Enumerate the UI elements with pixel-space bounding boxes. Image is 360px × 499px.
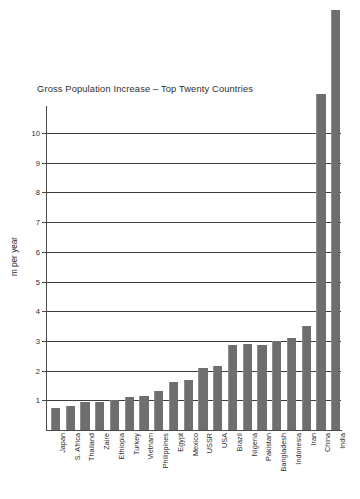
bar <box>184 380 193 430</box>
bar <box>80 402 89 430</box>
category-label: Egypt <box>176 433 185 452</box>
category-label: Nigeria <box>250 433 259 456</box>
category-label: Vietnam <box>146 433 155 460</box>
bar <box>110 400 119 430</box>
bar <box>302 326 311 430</box>
x-axis-category-labels: JapanS. AfricaThailandZaireEthiopiaTurke… <box>47 433 342 499</box>
y-tick-label: 1 <box>14 396 40 405</box>
category-label: Indonesia <box>294 433 303 465</box>
bar <box>331 10 340 430</box>
bar <box>213 366 222 430</box>
bar <box>66 406 75 430</box>
y-tick-mark <box>42 371 47 372</box>
category-label: Iran <box>309 433 318 446</box>
y-tick-label: 9 <box>14 158 40 167</box>
bar <box>198 368 207 430</box>
y-tick-label: 10 <box>14 129 40 138</box>
bars-layer <box>47 0 342 430</box>
y-tick-mark <box>42 311 47 312</box>
category-label: Thailand <box>87 433 96 461</box>
y-tick-label: 7 <box>14 218 40 227</box>
x-axis-line <box>47 430 342 431</box>
bar <box>139 396 148 430</box>
category-label: S. Africa <box>73 433 82 460</box>
category-label: Zaire <box>102 433 111 450</box>
category-label: India <box>338 433 347 449</box>
bar <box>287 338 296 430</box>
bar <box>228 345 237 430</box>
category-label: China <box>323 433 332 452</box>
bar <box>243 344 252 430</box>
y-tick-mark <box>42 192 47 193</box>
y-tick-mark <box>42 252 47 253</box>
category-label: Japan <box>58 433 67 453</box>
y-tick-mark <box>42 400 47 401</box>
y-tick-mark <box>42 222 47 223</box>
y-tick-mark <box>42 282 47 283</box>
y-tick-mark <box>42 163 47 164</box>
category-label: USSR <box>205 433 214 453</box>
category-label: Philippines <box>161 433 170 468</box>
category-label: Turkey <box>132 433 141 455</box>
bar <box>272 341 281 430</box>
bar <box>257 345 266 430</box>
category-label: Ethiopia <box>117 433 126 459</box>
category-label: Bangladesh <box>279 433 288 471</box>
bar <box>169 382 178 430</box>
bar <box>125 397 134 430</box>
bar <box>316 94 325 430</box>
population-increase-bar-chart: Gross Population Increase – Top Twenty C… <box>0 0 360 499</box>
bar <box>154 391 163 430</box>
bar <box>51 408 60 430</box>
y-axis-title: m per year <box>10 227 19 287</box>
y-tick-mark <box>42 133 47 134</box>
y-tick-label: 2 <box>14 366 40 375</box>
category-label: Pakistan <box>264 433 273 461</box>
y-tick-label: 8 <box>14 188 40 197</box>
y-tick-mark <box>42 341 47 342</box>
category-label: USA <box>220 433 229 448</box>
category-label: Mexico <box>191 433 200 456</box>
category-label: Brazil <box>235 433 244 451</box>
bar <box>95 402 104 430</box>
y-tick-label: 3 <box>14 336 40 345</box>
y-tick-label: 4 <box>14 307 40 316</box>
